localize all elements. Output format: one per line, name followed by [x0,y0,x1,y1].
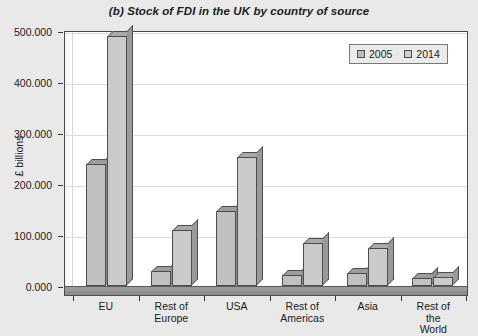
y-tick-mark [58,32,63,33]
bar-2014[interactable] [368,248,388,286]
x-tick-label: Rest of Europe [154,301,188,324]
bar-side-face [453,266,459,285]
y-tick-label: 0.000 [26,281,52,293]
bar-side-face [257,146,263,285]
chart-title: (b) Stock of FDI in the UK by country of… [0,5,478,17]
plot-back-wall [65,32,73,295]
x-tick-label: Rest of the World [411,301,456,336]
x-tick-mark [466,296,467,301]
bar-group [139,33,204,286]
bar-side-face [192,219,198,285]
y-tick-mark [58,185,63,186]
chart-legend: 2005 2014 [349,44,448,64]
legend-item-2014[interactable]: 2014 [404,48,439,60]
bar-2014[interactable] [107,36,127,286]
bar-2014[interactable] [433,277,453,286]
bar-2014[interactable] [172,230,192,286]
x-tick-mark [270,296,271,301]
bar-2005[interactable] [216,211,236,286]
bar-2005[interactable] [151,271,171,286]
bar-group [335,33,400,286]
bar-group [400,33,465,286]
bar-groups [74,33,465,286]
plot-area [64,31,468,296]
bar-group [270,33,335,286]
y-tick-label: 500.000 [14,26,52,38]
bar-side-face [127,25,133,285]
x-tick-mark [139,296,140,301]
bar-2005[interactable] [412,278,432,286]
y-tick-label: 400.000 [14,77,52,89]
y-tick-label: 100.000 [14,230,52,242]
legend-label-2005: 2005 [369,48,392,60]
bar-group [204,33,269,286]
y-tick-mark [58,134,63,135]
bar-side-face [323,232,329,285]
x-tick-label: EU [98,301,113,313]
bar-2005[interactable] [86,164,106,286]
x-tick-mark [335,296,336,301]
x-tick-label: Asia [358,301,378,313]
bar-2005[interactable] [282,275,302,286]
x-tick-mark [73,296,74,301]
legend-swatch-2005 [357,50,365,58]
x-tick-label: USA [226,301,248,313]
legend-item-2005[interactable]: 2005 [357,48,392,60]
y-tick-mark [58,236,63,237]
y-axis: 0.000100.000200.000300.000400.000500.000 [0,0,64,327]
y-tick-mark [58,83,63,84]
bar-side-face [388,237,394,285]
x-tick-mark [401,296,402,301]
bar-2014[interactable] [303,243,323,286]
bar-2014[interactable] [237,157,257,286]
y-tick-mark [58,287,63,288]
bars-layer [74,33,465,286]
y-tick-label: 300.000 [14,128,52,140]
x-tick-mark [204,296,205,301]
legend-label-2014: 2014 [416,48,439,60]
bar-group [74,33,139,286]
plot-floor-front [65,291,467,295]
plot-floor [65,286,467,295]
x-tick-label: Rest of Americas [280,301,324,324]
y-tick-label: 200.000 [14,179,52,191]
legend-swatch-2014 [404,50,412,58]
bar-2005[interactable] [347,273,367,286]
